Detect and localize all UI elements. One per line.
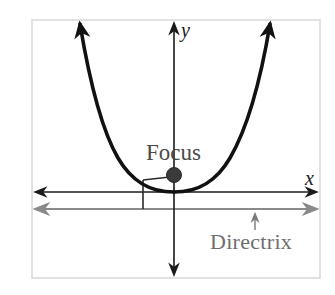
x-axis-label: x (305, 168, 314, 188)
focus-label: Focus (146, 141, 201, 164)
y-axis-label: y (181, 20, 190, 40)
focus-point (167, 168, 182, 183)
directrix-label: Directrix (210, 231, 292, 253)
